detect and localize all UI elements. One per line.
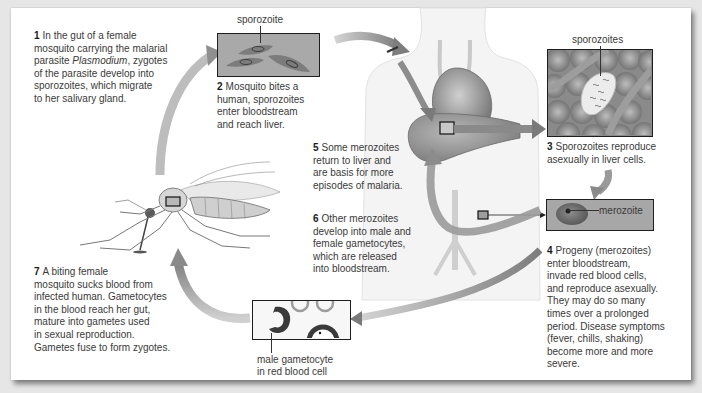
step-7-caption: 7A biting female mosquito sucks blood fr… — [34, 266, 170, 354]
step-2-caption: 2Mosquito bites a human, sporozoites ent… — [217, 81, 304, 131]
sporozoite-micrograph — [217, 33, 320, 77]
step-3-number: 3 — [547, 141, 553, 152]
step-4-number: 4 — [547, 245, 553, 256]
label-sporozoites: sporozoites — [572, 34, 623, 46]
leader-line-sporozoites — [600, 46, 601, 76]
step-3-caption: 3Sporozoites reproduce asexually in live… — [547, 141, 656, 166]
mosquito-gut-highlight-box — [166, 197, 180, 206]
gametocyte-micrograph — [252, 300, 351, 340]
malaria-lifecycle-diagram: sporozoite sporozoites merozoi — [0, 0, 702, 393]
plasmodium-italic: Plasmodium — [72, 55, 127, 66]
step-2-number: 2 — [217, 81, 223, 92]
leader-line-merozoite — [569, 210, 599, 211]
step-1-caption: 1In the gut of a female mosquito carryin… — [34, 30, 167, 106]
step-1-number: 1 — [34, 30, 40, 41]
step-5-caption: 5Some merozoites return to liver and are… — [313, 142, 403, 192]
liver-highlight-box — [440, 122, 454, 134]
leader-line-gametocyte — [271, 333, 272, 353]
label-gametocyte: male gametocyte in red blood cell — [257, 354, 333, 378]
step-6-number: 6 — [313, 213, 319, 224]
step-5-number: 5 — [313, 142, 319, 153]
vessel-highlight-box — [478, 211, 488, 219]
label-sporozoite: sporozoite — [237, 14, 283, 26]
step-7-number: 7 — [34, 266, 40, 277]
mosquito-illustration — [80, 162, 280, 254]
leader-line-sporozoite — [260, 26, 261, 43]
label-merozoite: merozoite — [599, 205, 643, 217]
step-4-caption: 4Progeny (merozoites) enter bloodstream,… — [547, 245, 665, 371]
step-6-caption: 6Other merozoites develop into male and … — [313, 213, 411, 276]
